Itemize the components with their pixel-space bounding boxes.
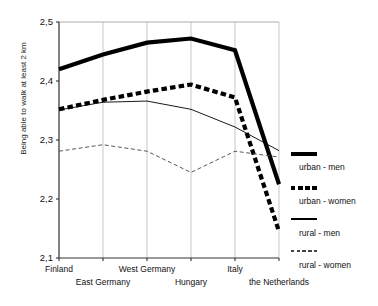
legend-swatch-rural-women <box>291 250 317 252</box>
legend-label-rural-men: rural - men <box>299 228 340 238</box>
y-tick-label: 2,5 <box>27 17 53 26</box>
series-lines <box>59 39 279 232</box>
x-category-label: Finland <box>9 264 109 274</box>
legend-swatch-urban-men <box>291 152 317 156</box>
legend-swatch-urban-women <box>291 186 317 190</box>
series-line-urban-men <box>59 39 279 185</box>
legend-swatch-rural-men <box>291 218 317 220</box>
y-tick-label: 2,4 <box>27 76 53 85</box>
x-category-label: West Germany <box>97 264 197 274</box>
series-line-rural-women <box>59 145 279 173</box>
legend-label-urban-men: urban - men <box>299 162 345 172</box>
chart-container: Being able to walk at least 2 km 2,12,22… <box>0 0 378 306</box>
x-category-label: the Netherlands <box>229 277 329 287</box>
y-tick-label: 2,3 <box>27 135 53 144</box>
legend-label-rural-women: rural - women <box>299 260 351 270</box>
x-category-label: Italy <box>185 264 285 274</box>
x-category-label: Hungary <box>141 277 241 287</box>
y-axis-title: Being able to walk at least 2 km <box>19 14 28 184</box>
series-line-urban-women <box>59 85 279 232</box>
x-category-label: East Germany <box>53 277 153 287</box>
y-tick-label: 2,1 <box>27 253 53 262</box>
y-tick-label: 2,2 <box>27 194 53 203</box>
legend-label-urban-women: urban - women <box>299 196 356 206</box>
